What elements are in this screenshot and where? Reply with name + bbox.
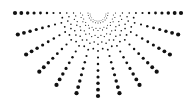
dot [119, 25, 120, 26]
dot [78, 79, 81, 82]
dot [104, 17, 105, 18]
dot [135, 34, 137, 36]
dot [76, 25, 77, 26]
dot [113, 73, 116, 76]
dot [88, 25, 89, 26]
dot [89, 28, 90, 29]
dot [134, 22, 136, 24]
dot [107, 49, 109, 51]
dot [97, 30, 98, 31]
dot [75, 15, 76, 16]
dot [102, 48, 104, 50]
dot [58, 34, 60, 36]
dot [56, 52, 59, 55]
dot [116, 85, 120, 89]
dot [108, 39, 110, 41]
dot [117, 91, 121, 95]
dot [91, 17, 92, 18]
dot [140, 23, 142, 25]
dot [80, 73, 83, 76]
dot [112, 18, 113, 19]
dot [46, 12, 48, 14]
dot [41, 43, 44, 46]
dot [114, 17, 115, 18]
dot [71, 56, 73, 58]
dot [101, 20, 102, 21]
dot [64, 31, 66, 33]
dot [37, 70, 41, 74]
dot [98, 23, 99, 24]
dot [76, 85, 80, 89]
dot [96, 82, 99, 85]
dot [89, 42, 91, 44]
dot [104, 36, 105, 37]
dot [179, 11, 183, 15]
dot [154, 12, 157, 15]
dot [102, 29, 103, 30]
dot [131, 72, 134, 75]
dot [168, 52, 172, 56]
dot [124, 28, 126, 30]
dot [103, 27, 104, 28]
dot [107, 25, 108, 26]
dot [155, 70, 159, 74]
dot [79, 35, 81, 37]
dot [146, 40, 149, 43]
dot [127, 20, 129, 22]
dot [115, 35, 117, 37]
dot [81, 17, 82, 18]
dot [152, 43, 155, 46]
dot [82, 39, 84, 41]
dot [112, 67, 115, 70]
dot [122, 12, 123, 13]
dot [130, 26, 132, 28]
dot [73, 12, 74, 13]
dot [105, 16, 106, 17]
dot [116, 45, 118, 47]
dot [70, 39, 72, 41]
dot [90, 16, 91, 17]
dot [134, 78, 138, 82]
dot [170, 31, 174, 35]
dot [115, 30, 116, 31]
dot [84, 30, 85, 31]
dot [157, 46, 160, 49]
dot [54, 83, 58, 87]
dot [141, 12, 143, 14]
dot [100, 22, 101, 23]
dot [53, 37, 55, 39]
dot [96, 75, 99, 78]
dot [19, 11, 23, 15]
dot [128, 12, 130, 14]
dot [61, 48, 63, 50]
dot [78, 45, 80, 47]
dot [106, 28, 107, 29]
dot [137, 52, 140, 55]
dot [77, 21, 78, 22]
dot [122, 56, 124, 58]
dot [124, 23, 126, 25]
dot [99, 20, 100, 21]
dot [105, 20, 106, 21]
dot [102, 19, 103, 20]
dot [85, 22, 86, 23]
dot [97, 69, 100, 72]
dot [74, 30, 76, 32]
dot [105, 42, 107, 44]
dot [100, 35, 101, 36]
dot [68, 61, 71, 64]
radial-dot-sunburst-logo [0, 0, 194, 100]
dot [68, 16, 70, 18]
dot [54, 23, 56, 25]
dot [74, 91, 78, 95]
dot [108, 55, 110, 57]
dot [91, 36, 92, 37]
dot [137, 83, 141, 87]
dot [47, 61, 50, 64]
dot [85, 34, 86, 35]
dot [84, 61, 86, 63]
dot [113, 15, 114, 16]
dot [74, 19, 75, 20]
dot [97, 56, 99, 58]
dot [128, 67, 131, 70]
